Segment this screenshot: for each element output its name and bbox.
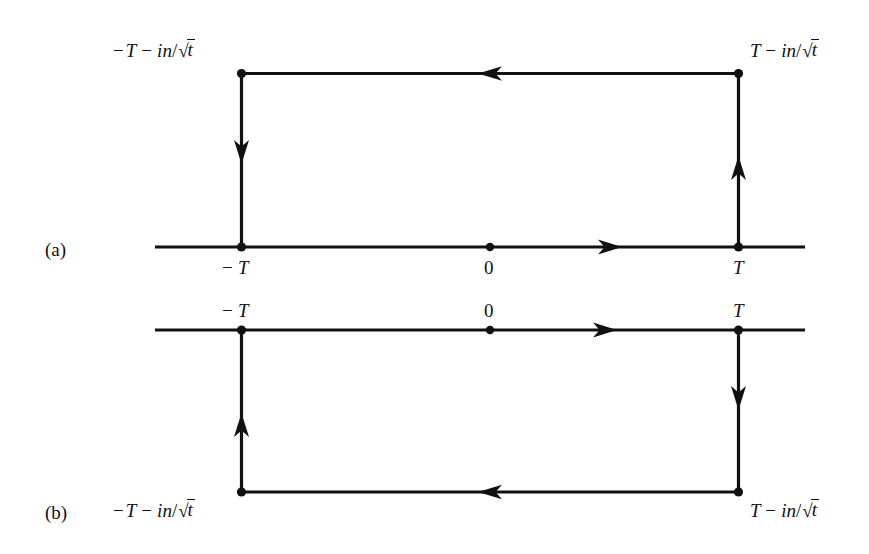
panel-a-axis-label-T: T [733, 258, 744, 277]
T-symbol: T [126, 40, 137, 61]
sqrt-icon: √t [177, 500, 195, 520]
minus-sign: − [222, 257, 233, 278]
panel-b-vertex-bottom-left [237, 487, 246, 496]
panel-b-axis-label-minus-T: − T [222, 301, 249, 320]
panel-b-label-bottom-right: T − in/√t [750, 500, 819, 520]
panel-b-point-T [734, 325, 743, 334]
T-symbol: T [733, 257, 744, 278]
panel-a-axis-label-minus-T: − T [222, 258, 249, 277]
t-symbol: t [811, 499, 819, 519]
minus-sign: − [765, 500, 776, 521]
panel-a-point-origin [486, 243, 494, 251]
panel-a-vertex-top-right [734, 69, 743, 78]
panel-b-axis-label-T: T [733, 301, 744, 320]
minus-sign: − [141, 40, 152, 61]
T-symbol: T [238, 257, 249, 278]
panel-label-a: (a) [45, 240, 66, 259]
minus-sign: − [222, 300, 233, 321]
T-symbol: T [126, 500, 137, 521]
T-symbol: T [750, 500, 761, 521]
t-symbol: t [187, 499, 195, 519]
panel-b-graphics [155, 323, 805, 500]
sqrt-icon: √t [177, 40, 195, 60]
T-symbol: T [238, 300, 249, 321]
panel-b-label-bottom-left: − T − in/√t [113, 500, 195, 520]
panel-a-point-minus-T [237, 242, 246, 251]
panel-b-axis-label-origin: 0 [484, 301, 494, 320]
in-symbol: in [157, 500, 172, 521]
panel-a-vertex-top-left [237, 69, 246, 78]
minus-sign: − [113, 40, 124, 61]
t-symbol: t [187, 39, 195, 59]
panel-b-vertex-bottom-right [734, 487, 743, 496]
in-symbol: in [157, 40, 172, 61]
panel-a-axis-label-origin: 0 [484, 258, 494, 277]
in-symbol: in [781, 40, 796, 61]
panel-b-point-minus-T [237, 325, 246, 334]
T-symbol: T [733, 300, 744, 321]
panel-b-point-origin [486, 326, 494, 334]
panel-a-graphics [155, 66, 805, 254]
sqrt-icon: √t [801, 500, 819, 520]
panel-label-b: (b) [45, 503, 67, 522]
sqrt-icon: √t [801, 40, 819, 60]
T-symbol: T [750, 40, 761, 61]
minus-sign: − [141, 500, 152, 521]
minus-sign: − [765, 40, 776, 61]
minus-sign: − [113, 500, 124, 521]
panel-a-label-top-left: − T − in/√t [113, 40, 195, 60]
panel-a-point-T [734, 242, 743, 251]
in-symbol: in [781, 500, 796, 521]
t-symbol: t [811, 39, 819, 59]
panel-a-label-top-right: T − in/√t [750, 40, 819, 60]
